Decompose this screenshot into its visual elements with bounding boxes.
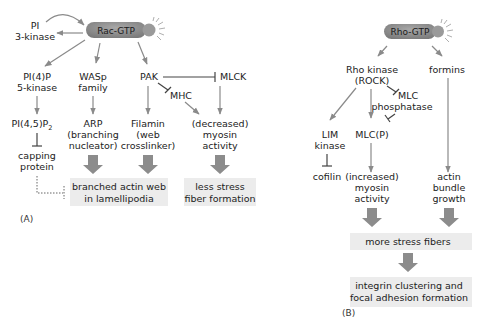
mlcp-label: MLC(P) <box>355 129 388 140</box>
filamin-label-3: crosslinker) <box>121 140 176 151</box>
block-arrow-integrin <box>398 253 418 272</box>
pip2-label: PI(4,5)P2 <box>12 118 53 132</box>
block-arrow-bundle <box>439 208 459 227</box>
increased-label-1: (increased) <box>345 171 398 182</box>
branched-label-1: branched actin web <box>72 181 166 192</box>
arp-label-3: nucleator) <box>69 140 118 151</box>
arrow-rac-to-pak <box>138 42 147 64</box>
panel-a: Rac-GTP PI 3-kinase PI(4)P 5-kinase WASp… <box>12 15 256 224</box>
block-arrow-arp <box>83 155 103 174</box>
less-stress-label-2: fiber formation <box>185 193 256 204</box>
rac-gtp-label: Rac-GTP <box>97 26 135 36</box>
pak-label: PAK <box>140 71 159 82</box>
lim-label-1: LIM <box>322 129 338 140</box>
arrow-pi3k-to-rac <box>46 15 84 25</box>
inhibit-pak-mhc <box>158 83 168 90</box>
panel-b-label: (B) <box>342 308 355 318</box>
decreased-label-3: activity <box>202 140 237 151</box>
rho-gtp-label: Rho-GTP <box>391 27 430 37</box>
signaling-diagram: Rac-GTP PI 3-kinase PI(4)P 5-kinase WASp… <box>0 0 482 327</box>
filamin-label-1: Filamin <box>131 118 165 129</box>
inhibit-rock-mlcp <box>387 86 396 92</box>
block-arrow-myosin-b <box>362 208 382 227</box>
filamin-label-2: (web <box>136 129 159 140</box>
mlck-label: MLCK <box>220 71 247 82</box>
arrow-mhc-to-myosin <box>185 102 199 114</box>
panel-a-label: (A) <box>20 214 33 224</box>
arrow-rac-to-pi4p <box>45 40 85 66</box>
pi4p-label-1: PI(4)P <box>23 71 51 82</box>
block-arrow-filamin <box>138 155 158 174</box>
arp-label-2: (branching <box>67 129 118 140</box>
arrow-rock-to-lim <box>330 88 356 120</box>
pi3k-label-2: 3-kinase <box>15 31 55 42</box>
arp-label-1: ARP <box>84 118 103 129</box>
lim-label-2: kinase <box>315 140 346 151</box>
mhc-label: MHC <box>170 90 192 101</box>
integrin-label-1: integrin clustering and <box>355 280 463 291</box>
mlc-phosphatase-label-1: MLC <box>398 90 418 101</box>
rock-label-2: (ROCK) <box>355 75 389 86</box>
decreased-label-1: (decreased) <box>192 118 249 129</box>
increased-label-3: activity <box>354 193 389 204</box>
wasp-label-2: family <box>78 82 108 93</box>
pi4p-label-2: 5-kinase <box>17 82 57 93</box>
bundle-label-1: actin <box>437 171 460 182</box>
bundle-label-2: bundle <box>433 182 466 193</box>
rho-gtp-node: Rho-GTP <box>384 19 453 42</box>
capping-label-1: capping <box>18 150 56 161</box>
less-stress-label-1: less stress <box>195 181 245 192</box>
increased-label-2: myosin <box>355 182 389 193</box>
panel-b: Rho-GTP Rho kinase (ROCK) formins MLC ph… <box>313 19 472 318</box>
integrin-label-2: focal adhesion formation <box>350 292 468 303</box>
wasp-label-1: WASp <box>79 71 106 82</box>
arrow-rac-to-wasp <box>96 43 100 63</box>
cofilin-label: cofilin <box>313 171 341 182</box>
branched-label-2: in lamellipodia <box>84 193 154 204</box>
arrow-rho-to-rock <box>378 46 387 56</box>
arrow-rho-to-formins <box>432 46 442 56</box>
pi3k-label-1: PI <box>31 20 40 31</box>
capping-label-2: protein <box>20 161 54 172</box>
block-arrow-myosin <box>210 155 230 174</box>
inhibit-mlcp-mlc <box>388 114 395 119</box>
rock-label-1: Rho kinase <box>346 64 398 75</box>
dotted-connector <box>37 176 63 193</box>
formins-label: formins <box>429 64 465 75</box>
mlc-phosphatase-label-2: phosphatase <box>371 101 432 112</box>
decreased-label-2: myosin <box>203 129 237 140</box>
more-stress-label: more stress fibers <box>365 236 451 247</box>
rac-gtp-node: Rac-GTP <box>86 17 165 40</box>
bundle-label-3: growth <box>432 193 465 204</box>
